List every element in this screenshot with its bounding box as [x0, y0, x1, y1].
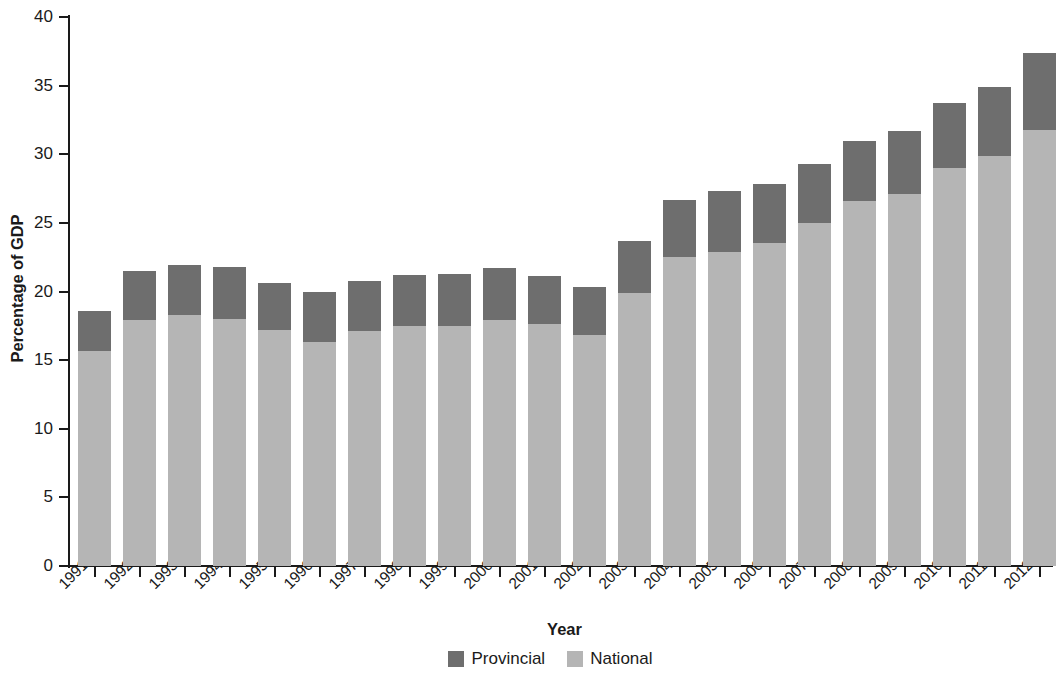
x-axis-tick [1039, 567, 1041, 577]
bar-segment-national[interactable] [303, 342, 336, 566]
bar-segment-national[interactable] [438, 326, 471, 566]
x-axis-tick [724, 567, 726, 577]
bar-segment-provincial[interactable] [1023, 53, 1056, 130]
bar-segment-national[interactable] [843, 201, 876, 566]
bar-group[interactable] [978, 17, 1011, 566]
bar-group[interactable] [663, 17, 696, 566]
bar-group[interactable] [573, 17, 606, 566]
bar-segment-national[interactable] [888, 194, 921, 566]
bar-segment-provincial[interactable] [528, 276, 561, 324]
x-axis-title: Year [0, 620, 1061, 639]
bar-segment-national[interactable] [798, 223, 831, 566]
bar-segment-provincial[interactable] [213, 267, 246, 319]
y-axis-tick-label: 10 [9, 420, 53, 437]
bar-segment-provincial[interactable] [798, 164, 831, 223]
bar-group[interactable] [618, 17, 651, 566]
bar-group[interactable] [348, 17, 381, 566]
bar-group[interactable] [933, 17, 966, 566]
bar-group[interactable] [438, 17, 471, 566]
bar-segment-national[interactable] [213, 319, 246, 566]
bar-group[interactable] [1023, 17, 1056, 566]
bar-segment-national[interactable] [978, 156, 1011, 566]
y-axis-tick [59, 16, 68, 18]
legend-label: Provincial [471, 650, 545, 667]
bar-segment-provincial[interactable] [258, 283, 291, 330]
bar-segment-provincial[interactable] [753, 184, 786, 243]
bar-segment-provincial[interactable] [933, 103, 966, 168]
bar-segment-provincial[interactable] [483, 268, 516, 320]
bar-group[interactable] [888, 17, 921, 566]
bar-segment-national[interactable] [663, 257, 696, 566]
bar-segment-provincial[interactable] [393, 275, 426, 326]
stacked-bar-chart: Percentage of GDP 0510152025303540 19911… [0, 0, 1061, 674]
bar-segment-national[interactable] [618, 293, 651, 566]
y-axis-tick [59, 222, 68, 224]
bar-segment-provincial[interactable] [618, 241, 651, 293]
y-axis-tick-label: 25 [9, 214, 53, 231]
bar-segment-provincial[interactable] [978, 87, 1011, 156]
x-axis-tick [184, 567, 186, 577]
bar-segment-provincial[interactable] [123, 271, 156, 320]
bar-segment-national[interactable] [78, 351, 111, 566]
x-axis-tick [499, 567, 501, 577]
x-axis-tick [904, 567, 906, 577]
bar-group[interactable] [798, 17, 831, 566]
bar-segment-national[interactable] [123, 320, 156, 566]
legend-item-national[interactable]: National [567, 650, 652, 667]
bar-segment-provincial[interactable] [888, 131, 921, 194]
bar-segment-provincial[interactable] [843, 141, 876, 201]
x-axis-tick [409, 567, 411, 577]
x-axis-tick [544, 567, 546, 577]
bar-segment-provincial[interactable] [348, 281, 381, 332]
x-axis-tick [814, 567, 816, 577]
bar-segment-national[interactable] [348, 331, 381, 566]
bar-segment-national[interactable] [483, 320, 516, 566]
bar-segment-national[interactable] [393, 326, 426, 566]
bar-segment-national[interactable] [528, 324, 561, 566]
bar-group[interactable] [753, 17, 786, 566]
y-axis-tick [59, 496, 68, 498]
bar-segment-provincial[interactable] [663, 200, 696, 258]
x-axis-tick [94, 567, 96, 577]
bar-segment-national[interactable] [1023, 130, 1056, 566]
x-axis-tick [994, 567, 996, 577]
bar-group[interactable] [78, 17, 111, 566]
x-axis-tick [949, 567, 951, 577]
x-axis-tick [679, 567, 681, 577]
bar-segment-national[interactable] [258, 330, 291, 566]
y-axis-tick-label: 40 [9, 8, 53, 25]
plot-area [68, 17, 1053, 566]
bar-segment-provincial[interactable] [168, 265, 201, 314]
x-axis-tick [454, 567, 456, 577]
legend-label: National [590, 650, 652, 667]
y-axis-tick-label: 20 [9, 283, 53, 300]
bar-segment-provincial[interactable] [708, 191, 741, 251]
bar-group[interactable] [483, 17, 516, 566]
bar-segment-national[interactable] [573, 335, 606, 566]
bar-group[interactable] [213, 17, 246, 566]
bar-segment-provincial[interactable] [438, 274, 471, 326]
bar-group[interactable] [258, 17, 291, 566]
x-axis-tick [634, 567, 636, 577]
bar-group[interactable] [393, 17, 426, 566]
bar-group[interactable] [168, 17, 201, 566]
y-axis-tick [59, 291, 68, 293]
bar-group[interactable] [303, 17, 336, 566]
bar-segment-national[interactable] [933, 168, 966, 566]
legend-item-provincial[interactable]: Provincial [448, 650, 545, 667]
y-axis-tick [59, 85, 68, 87]
y-axis-tick-label: 5 [9, 488, 53, 505]
bar-segment-national[interactable] [753, 243, 786, 566]
y-axis-tick [59, 428, 68, 430]
x-axis-tick [859, 567, 861, 577]
bar-group[interactable] [123, 17, 156, 566]
bar-segment-national[interactable] [168, 315, 201, 566]
bar-segment-provincial[interactable] [573, 287, 606, 335]
bar-segment-provincial[interactable] [78, 311, 111, 351]
bar-segment-national[interactable] [708, 252, 741, 566]
x-axis-tick [364, 567, 366, 577]
bar-group[interactable] [528, 17, 561, 566]
bar-segment-provincial[interactable] [303, 292, 336, 343]
bar-group[interactable] [843, 17, 876, 566]
bar-group[interactable] [708, 17, 741, 566]
